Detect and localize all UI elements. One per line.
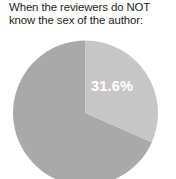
slice-value-label: 31.6% [91, 78, 133, 94]
pie-chart-area: 31.6% [0, 0, 176, 179]
pie-chart-svg [0, 0, 176, 179]
pie-chart-figure: When the reviewers do NOT know the sex o… [0, 0, 176, 179]
